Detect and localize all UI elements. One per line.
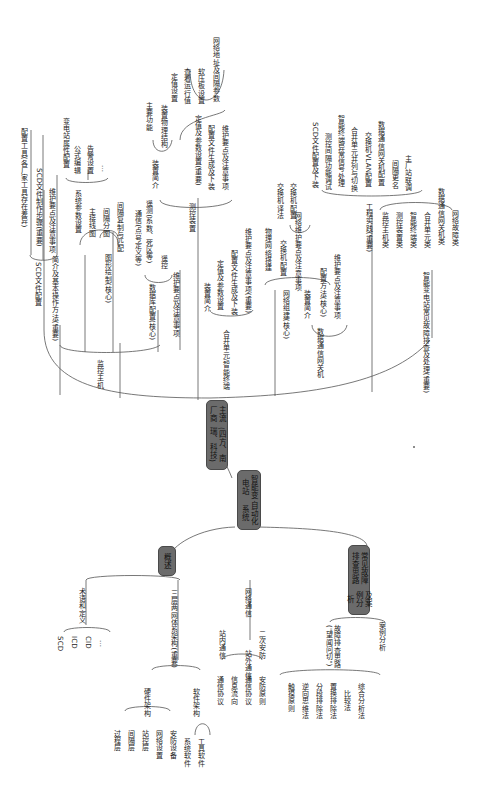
out-security-principle[interactable]: 安防原则 (258, 676, 266, 705)
setting-network-address[interactable]: 网络地址及间隔参数 (212, 37, 220, 102)
hw-station-layer[interactable]: 站控层 (141, 730, 149, 752)
measure-control-label[interactable]: 测控装置 (188, 203, 196, 232)
graphics-label[interactable]: 图形绘制(核心) (104, 254, 112, 303)
scd-config-label[interactable]: SCD文件配置 (34, 262, 42, 306)
eng-merging-unit[interactable]: 合并单元类 (423, 212, 431, 248)
case-analysis[interactable]: 案例分析 (378, 622, 386, 651)
approach-reverse[interactable]: 逆向思维法 (301, 683, 309, 719)
measure-config-file[interactable]: 配置文件生成及下装 (207, 125, 215, 190)
eng-joint-debug[interactable]: 主厂站联调 (404, 155, 412, 191)
comm-label[interactable]: 通信(点号定义等) (134, 210, 142, 266)
hw-security-device[interactable]: 安防设备 (169, 730, 177, 759)
eng-monitor-host[interactable]: 监控主机类 (381, 212, 389, 248)
overview-node[interactable]: 概述 (158, 546, 176, 576)
software-label[interactable]: 软件架构 (192, 688, 200, 717)
sys-param-alarm[interactable]: 告警设置 (86, 145, 94, 174)
hardware-label[interactable]: 硬件架构 (143, 688, 151, 717)
switch-config[interactable]: 交换机配置 (289, 183, 297, 219)
vendor-node[interactable]: 主流厂商 (四方、南瑞、科技) (206, 400, 228, 470)
mu-config-file[interactable]: 配置文件生成及下装 (230, 250, 238, 315)
network-maintenance[interactable]: 网络维护要点及注意事项 (294, 212, 302, 291)
mu-intro[interactable]: 装置简介 (203, 283, 211, 312)
scd-config-steps[interactable]: SCD文件制作步骤(重要) (35, 168, 43, 247)
hw-process-layer[interactable]: 过程层 (113, 730, 121, 752)
term-more[interactable]: … (98, 640, 106, 647)
eng-bay-debug[interactable]: 测控间隔功能调试 (324, 133, 332, 191)
sw-tool[interactable]: 工具软件 (197, 738, 205, 767)
engineering-label[interactable]: 工程实践(重要) (365, 203, 373, 252)
setting-label[interactable]: 定值及参数设置(重要) (194, 115, 202, 186)
gateway-intro[interactable]: 装置简介 (303, 290, 311, 319)
root-node[interactable]: 智能变电站 自动化系统 (237, 470, 261, 530)
merging-unit-label[interactable]: 合并单元/智能终端 (222, 330, 230, 390)
approach-replace[interactable]: 置换排除法 (329, 683, 337, 719)
comm-remote-control[interactable]: 遥控 (160, 255, 168, 269)
eng-smart-terminal[interactable]: 智能终端类 (409, 212, 417, 248)
network-comm-label[interactable]: 网络通信 (244, 588, 252, 617)
database-config[interactable]: 数据库配置(核心) (148, 284, 156, 340)
eng-terminal-abnormal[interactable]: 智能终端异常信号处理 (337, 115, 345, 187)
approach-segment[interactable]: 分段排除法 (315, 683, 323, 719)
out-station-label[interactable]: 站外通信 (244, 650, 252, 679)
in-station-label[interactable]: 站内通信 (218, 630, 226, 659)
eng-measure-device[interactable]: 测控装置类 (395, 212, 403, 248)
sys-param-more[interactable]: … (100, 165, 108, 172)
graphics-main-diagram[interactable]: 主接线图 (88, 208, 96, 237)
setting-view-running[interactable]: 查看运行值 (183, 68, 191, 104)
eng-gateway-config[interactable]: 数据通信网关机配置 (377, 121, 385, 186)
eng-network-fault[interactable]: 网络故障类 (451, 210, 459, 246)
approach-compare[interactable]: 比较法 (343, 690, 351, 712)
mu-maintenance[interactable]: 维护要点及注意事项(重要) (244, 228, 252, 313)
measure-maintenance[interactable]: 维护要点及注意事项 (221, 125, 229, 190)
graphics-bay-copy[interactable]: 间隔复制与匹配 (116, 202, 124, 252)
gateway-maintenance[interactable]: 维护要点及注意事项 (333, 254, 341, 319)
comm-telemetry[interactable]: 遥测(系数、死区等) (145, 200, 153, 263)
switch-translation[interactable]: 交换机译法 (276, 183, 284, 219)
gateway-config[interactable]: 配置方法(核心) (319, 268, 327, 317)
physical-structure[interactable]: 装置物理结构 (160, 105, 168, 148)
term-icd[interactable]: ICD (70, 636, 78, 649)
setting-value[interactable]: 定值设置 (170, 73, 178, 102)
monitor-host-label[interactable]: 监控主机 (96, 360, 104, 389)
out-protocol[interactable]: 通信协议 (244, 676, 252, 705)
gateway-label[interactable]: 数据通信网关机 (316, 328, 324, 378)
scd-config-tool[interactable]: 配置工具(各厂家工具存在差异) (20, 128, 28, 227)
sys-param-substation[interactable]: 变电站属性配置 (62, 118, 70, 168)
approach-touch[interactable]: 触摸原则 (287, 683, 295, 712)
eng-scd-download[interactable]: SCD文件配置及下装 (311, 122, 319, 188)
eng-bay-rename[interactable]: 间隔更名 (391, 160, 399, 189)
approach-synthesis[interactable]: 综合分析法 (357, 683, 365, 719)
three-layer-label[interactable]: 三层两网体系架构(重要) (170, 590, 178, 668)
root-line2: 自动化系统 (240, 500, 258, 526)
setting-soft-plate[interactable]: 软压板设置 (197, 68, 205, 104)
sw-system[interactable]: 系统软件 (183, 738, 191, 767)
device-intro-label[interactable]: 装置简介 (151, 160, 159, 189)
sys-param-formula[interactable]: 公式编辑 (73, 145, 81, 174)
hw-network-device[interactable]: 网络设置 (155, 730, 163, 759)
sys-param-label[interactable]: 系统参数设置 (74, 190, 82, 233)
eng-gateway[interactable]: 数据通信网关机类 (437, 188, 445, 246)
monitor-intro[interactable]: 简介及基本操作方法(重要) (51, 256, 59, 341)
fault-node[interactable]: 常见故障排查思路 及案例分析 (348, 545, 370, 615)
eng-mu-parallel[interactable]: 合并单元并列与切换 (350, 127, 358, 192)
term-scd[interactable]: SCD (56, 636, 64, 651)
secondary-security[interactable]: 二次安防 (258, 630, 266, 659)
mu-setting[interactable]: 定值及参数设置 (216, 260, 224, 310)
scd-config-maintenance[interactable]: 维护要点及注意事项 (48, 188, 56, 253)
network-label[interactable]: 网络组建(核心) (282, 290, 290, 339)
eng-vlan[interactable]: 交换机VLAN配置 (364, 132, 372, 188)
overview-label: 概述 (163, 553, 172, 569)
terms-label[interactable]: 术语和定义 (78, 588, 86, 624)
graphics-bay-diagram[interactable]: 间隔分图 (102, 208, 110, 237)
term-cid[interactable]: CID (84, 636, 92, 649)
hw-bay-layer[interactable]: 间隔层 (127, 730, 135, 752)
monitor-maintenance[interactable]: 维护要点及注意事项 (172, 272, 180, 337)
approach-label[interactable]: 故障排查思路("望闻问切") (323, 625, 341, 677)
network-physical[interactable]: 物理网络搭建 (264, 228, 272, 271)
network-switch-config[interactable]: 交换机配置 (279, 240, 287, 276)
main-function[interactable]: 主要功能 (145, 102, 153, 131)
in-info-flow[interactable]: 信息流向 (230, 676, 238, 705)
in-protocol[interactable]: 通信协议 (216, 676, 224, 705)
vendor-line2: (四方、南瑞、科技) (208, 423, 226, 466)
troubleshoot-label[interactable]: 智能变电站常见故障排查及处理(重要) (422, 272, 430, 393)
